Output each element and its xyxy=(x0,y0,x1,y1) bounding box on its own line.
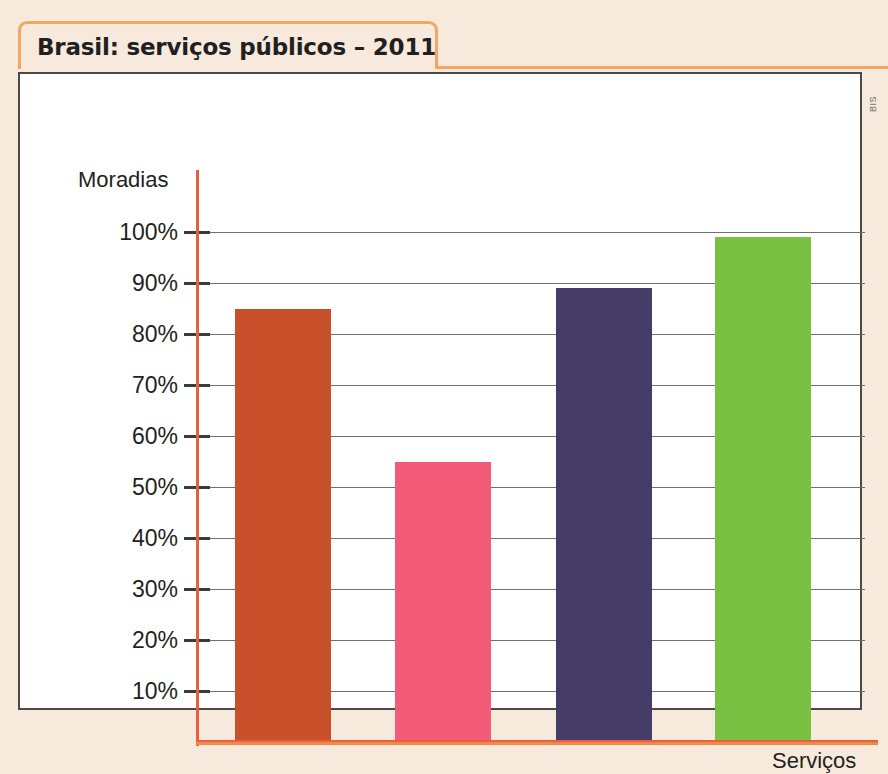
bar xyxy=(235,309,331,743)
chart-title-bar: Brasil: serviços públicos – 2011 xyxy=(0,0,888,80)
title-underline-rule xyxy=(438,66,888,69)
x-axis-line xyxy=(196,742,878,745)
chart-panel: Moradias 10%20%30%40%50%60%70%80%90%100%… xyxy=(18,72,862,710)
bar xyxy=(556,288,652,742)
plot-area: Moradias 10%20%30%40%50%60%70%80%90%100%… xyxy=(20,74,860,708)
source-credit: BIS xyxy=(868,96,878,112)
bar xyxy=(395,462,491,743)
bar xyxy=(715,237,811,742)
page-title: Brasil: serviços públicos – 2011 xyxy=(37,34,436,60)
bar-series xyxy=(20,74,860,742)
title-tab: Brasil: serviços públicos – 2011 xyxy=(18,21,438,69)
x-axis-title: Serviços xyxy=(772,748,856,774)
